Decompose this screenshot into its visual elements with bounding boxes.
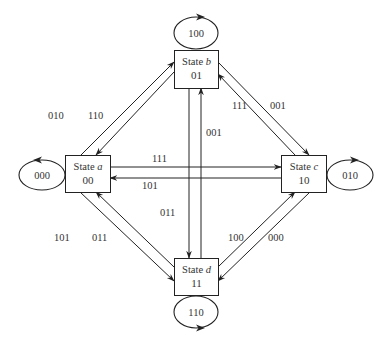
transition-label-d-to-b: 001 (206, 127, 222, 138)
state-name: State c (290, 161, 319, 172)
transition-label-a-to-d: 101 (54, 232, 70, 243)
state-variable: a (97, 161, 102, 172)
self-loop-c: 010 (327, 157, 373, 191)
state-name: State d (182, 264, 212, 275)
state-code: 10 (299, 174, 311, 186)
transition-label-d-to-a: 011 (92, 232, 107, 243)
transition-d-to-a (96, 192, 174, 267)
state-variable: b (206, 56, 211, 67)
state-prefix: State (290, 161, 314, 172)
state-a: State a00 (66, 156, 111, 193)
self-loop-a: 000 (19, 157, 65, 191)
state-diagram: 000100010110 State a00State b01State c10… (0, 0, 385, 342)
transition-d-to-c (218, 192, 295, 267)
self-loop-d: 110 (174, 296, 218, 332)
transition-label-a-to-c: 111 (152, 153, 167, 164)
self-loop-label: 100 (188, 28, 204, 39)
transition-label-b-to-c: 001 (270, 100, 286, 111)
transition-c-to-b (218, 74, 295, 155)
state-code: 01 (191, 69, 202, 81)
state-d: State d11 (175, 259, 219, 296)
state-name: State b (182, 56, 211, 67)
transition-label-c-to-b: 111 (232, 100, 247, 111)
state-prefix: State (182, 56, 206, 67)
transition-label-c-to-d: 000 (268, 232, 284, 243)
transition-label-b-to-d: 011 (160, 207, 175, 218)
state-code: 11 (191, 277, 202, 289)
state-prefix: State (74, 161, 98, 172)
self-loop-label: 000 (34, 170, 50, 181)
transition-label-c-to-a: 101 (142, 180, 158, 191)
state-prefix: State (182, 264, 206, 275)
self-loop-label: 010 (342, 170, 358, 181)
transition-a-to-b (81, 62, 174, 155)
transition-label-b-to-a: 110 (88, 110, 103, 121)
transition-edges (80, 62, 310, 281)
state-name: State a (74, 161, 103, 172)
state-nodes: State a00State b01State c10State d11 (66, 51, 327, 296)
self-loop-b: 100 (174, 14, 218, 50)
state-variable: c (313, 161, 318, 172)
state-c: State c10 (282, 156, 327, 193)
transition-label-d-to-c: 100 (228, 232, 244, 243)
self-loop-label: 110 (188, 307, 203, 318)
transition-label-a-to-b: 010 (48, 110, 64, 121)
state-code: 00 (83, 174, 95, 186)
transition-b-to-a (96, 72, 174, 155)
state-variable: d (206, 264, 212, 275)
state-b: State b01 (175, 51, 219, 89)
